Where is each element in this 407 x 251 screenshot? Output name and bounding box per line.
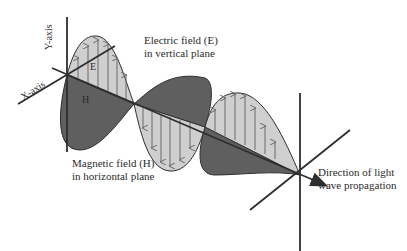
propagation-caption-line1: Direction of light [318,166,397,179]
propagation-caption-line2: wave propagation [318,179,397,192]
electric-field-caption: Electric field (E) in vertical plane [144,34,218,60]
magnetic-field-caption: Magnetic field (H) in horizontal plane [72,157,154,183]
h-marker-label: H [82,93,89,106]
magnetic-field-caption-line2: in horizontal plane [72,170,154,183]
e-marker-label: E [90,60,96,73]
y-axis-label: Y-axis [42,24,55,50]
magnetic-field-caption-line1: Magnetic field (H) [72,157,154,170]
electric-field-caption-line1: Electric field (E) [144,34,218,47]
electric-field-caption-line2: in vertical plane [144,47,218,60]
propagation-caption: Direction of light wave propagation [318,166,397,192]
